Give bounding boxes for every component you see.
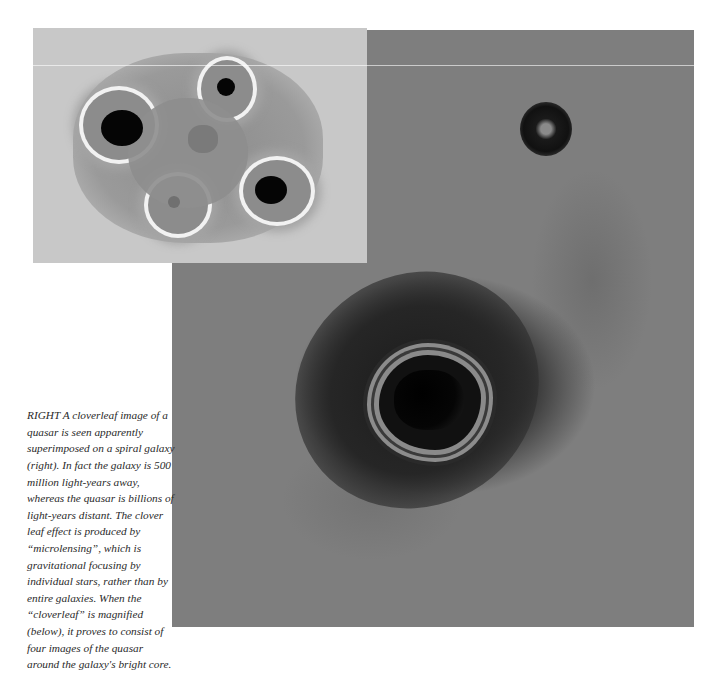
galaxy-bright-core [188, 125, 218, 153]
quasar-core-4 [168, 196, 180, 208]
cloverleaf-quasar-core [394, 370, 464, 430]
scan-artifact-line [33, 65, 694, 66]
quasar-core-2 [217, 78, 235, 96]
figure-caption: RIGHT A cloverleaf image of a quasar is … [27, 407, 175, 673]
cloverleaf-magnified-photo [33, 28, 367, 263]
galaxy-core-overlay [128, 98, 248, 208]
caption-lead: RIGHT [27, 409, 60, 421]
quasar-core-3 [255, 176, 287, 204]
caption-text: A cloverleaf image of a quasar is seen a… [27, 409, 174, 670]
foreground-star [520, 102, 572, 156]
quasar-core-1 [101, 110, 143, 146]
